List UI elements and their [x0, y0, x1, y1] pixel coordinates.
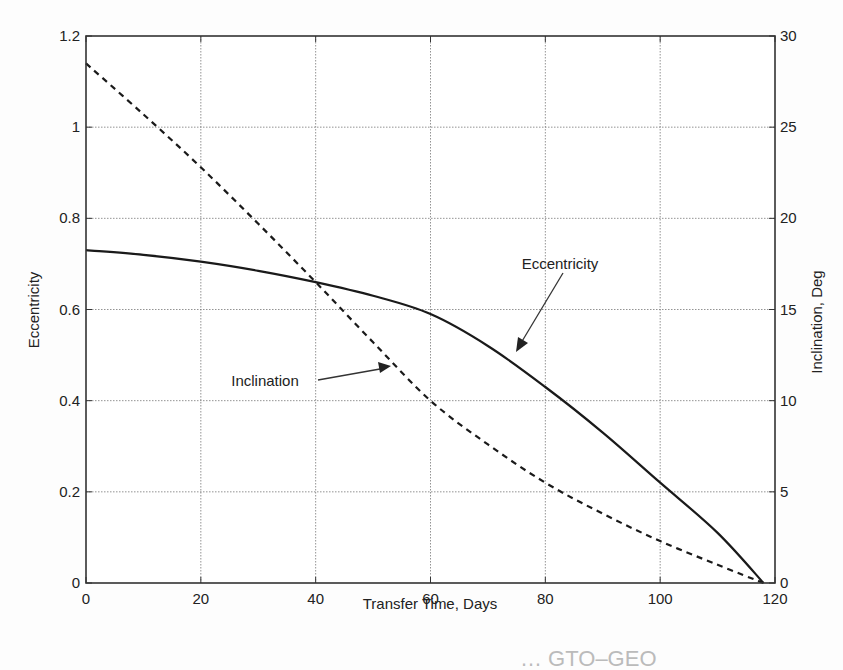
y-tick-label: 1	[72, 118, 80, 135]
y2-tick-label: 20	[780, 209, 797, 226]
y-tick-label: 1.2	[59, 27, 80, 44]
x-tick-label: 0	[82, 590, 90, 607]
y-tick-label: 0.4	[59, 392, 80, 409]
y2-tick-label: 5	[780, 483, 788, 500]
x-tick-label: 40	[307, 590, 324, 607]
y-axis-label: Eccentricity	[25, 271, 42, 348]
figure-caption-fragment: … GTO–GEO	[520, 646, 657, 670]
y2-tick-label: 0	[780, 574, 788, 591]
x-tick-label: 120	[762, 590, 787, 607]
y-tick-label: 0.8	[59, 209, 80, 226]
y2-axis-label: Inclination, Deg	[808, 270, 825, 373]
inclination-annotation: Inclination	[231, 372, 299, 389]
x-tick-label: 80	[537, 590, 554, 607]
x-axis-label: Transfer Time, Days	[363, 595, 497, 612]
y2-tick-label: 15	[780, 301, 797, 318]
y2-tick-label: 25	[780, 118, 797, 135]
x-tick-label: 100	[648, 590, 673, 607]
y-tick-label: 0	[72, 574, 80, 591]
y-tick-label: 0.2	[59, 483, 80, 500]
y2-tick-label: 10	[780, 392, 797, 409]
eccentricity-annotation: Eccentricity	[522, 255, 599, 272]
y2-tick-label: 30	[780, 27, 797, 44]
x-tick-label: 20	[192, 590, 209, 607]
y-tick-label: 0.6	[59, 301, 80, 318]
